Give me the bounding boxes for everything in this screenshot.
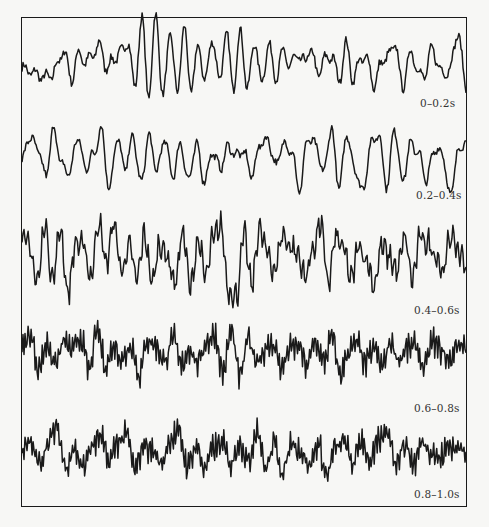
segment-label-5: 0.8–1.0s [414,488,460,500]
segment-label-3: 0.4–0.6s [414,304,460,316]
waveform-plot [0,0,489,527]
waveform-trace-2 [22,126,466,194]
segment-label-1: 0–0.2s [420,97,455,109]
segment-label-2: 0.2–0.4s [416,189,462,201]
segment-label-4: 0.6–0.8s [414,402,460,414]
waveform-trace-5 [22,418,466,481]
waveform-trace-3 [22,211,466,308]
waveform-trace-1 [22,13,466,98]
waveform-trace-4 [22,321,466,389]
